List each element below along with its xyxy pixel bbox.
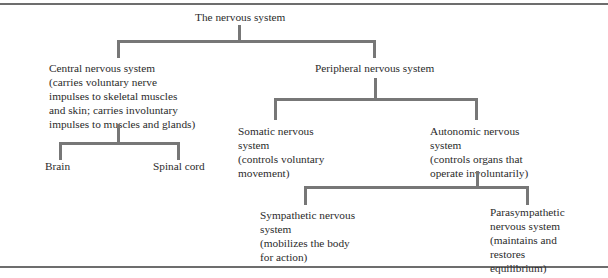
connector-autonomic-bracket: [304, 186, 529, 189]
node-desc-line: operate involuntarily): [430, 166, 528, 180]
node-desc-line: (mobilizes the body: [260, 236, 355, 250]
connector-pns-bracket: [274, 98, 478, 101]
top-rule: [0, 3, 608, 5]
node-title-line: system: [430, 138, 528, 152]
node-title-line: Autonomic nervous: [430, 124, 528, 138]
node-title-line: system: [260, 222, 355, 236]
node-somatic-nervous-system: Somatic nervous system (controls volunta…: [238, 124, 324, 180]
connector-to-cns: [117, 40, 120, 58]
node-desc-line: (carries voluntary nerve: [49, 75, 195, 89]
node-desc-line: (controls voluntary: [238, 152, 324, 166]
connector-to-sympathetic: [304, 186, 307, 205]
node-sympathetic-nervous-system: Sympathetic nervous system (mobilizes th…: [260, 208, 355, 264]
node-title-line: Sympathetic nervous: [260, 208, 355, 222]
connector-pns-stem: [374, 78, 377, 100]
connector-cns-bracket: [59, 142, 180, 145]
node-parasympathetic-nervous-system: Parasympathetic nervous system (maintain…: [490, 205, 565, 275]
connector-root-bracket: [117, 40, 376, 43]
node-brain: Brain: [45, 159, 70, 173]
node-desc-line: impulses to skeletal muscles: [49, 89, 195, 103]
node-desc-line: movement): [238, 166, 324, 180]
connector-to-pns: [373, 40, 376, 58]
node-title: Central nervous system: [49, 61, 195, 75]
node-desc-line: equilibrium): [490, 261, 565, 275]
connector-to-somatic: [274, 98, 277, 120]
node-title-line: nervous system: [490, 219, 565, 233]
node-title: Peripheral nervous system: [315, 61, 434, 75]
node-title: Brain: [45, 159, 70, 173]
node-desc-line: restores: [490, 247, 565, 261]
connector-to-autonomic: [475, 98, 478, 120]
node-desc-line: (maintains and: [490, 233, 565, 247]
node-nervous-system: The nervous system: [195, 10, 285, 24]
connector-to-parasympathetic: [526, 186, 529, 205]
connector-to-spinal-cord: [177, 142, 180, 160]
node-title-line: system: [238, 138, 324, 152]
node-autonomic-nervous-system: Autonomic nervous system (controls organ…: [430, 124, 528, 180]
node-title: The nervous system: [195, 10, 285, 24]
node-title-line: Somatic nervous: [238, 124, 324, 138]
node-title-line: Parasympathetic: [490, 205, 565, 219]
node-desc-line: (controls organs that: [430, 152, 528, 166]
node-desc-line: for action): [260, 250, 355, 264]
node-title: Spinal cord: [153, 159, 205, 173]
node-central-nervous-system: Central nervous system (carries voluntar…: [49, 61, 195, 131]
node-spinal-cord: Spinal cord: [153, 159, 205, 173]
connector-cns-stem: [117, 124, 120, 144]
node-desc-line: impulses to muscles and glands): [49, 117, 195, 131]
node-peripheral-nervous-system: Peripheral nervous system: [315, 61, 434, 75]
node-desc-line: and skin; carries involuntary: [49, 103, 195, 117]
connector-to-brain: [59, 142, 62, 160]
